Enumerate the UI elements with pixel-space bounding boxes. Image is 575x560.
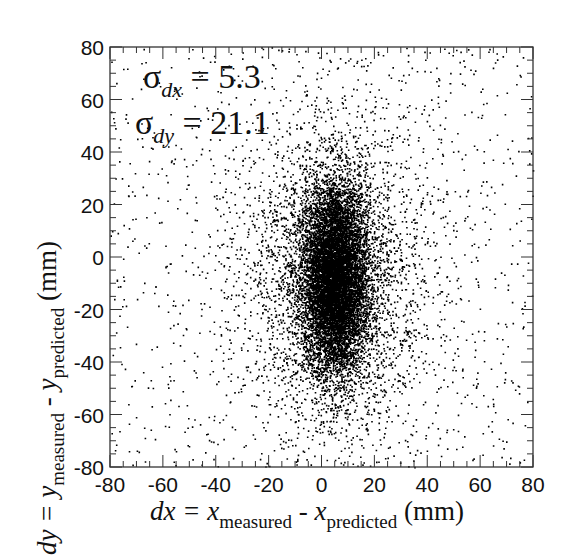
scatter-chart: -80-60-40-20020406080 -80-60-40-20020406…: [0, 0, 575, 560]
x-tick-label: 0: [316, 473, 328, 496]
x-tick-labels: -80-60-40-20020406080: [95, 473, 545, 496]
x-tick-label: -40: [201, 473, 231, 496]
x-axis-title: dx = xmeasured - xpredicted (mm): [150, 496, 464, 532]
y-axis-title: dy = ymeasured - ypredicted (mm): [32, 241, 68, 555]
y-tick-label: 60: [81, 89, 104, 112]
x-tick-label: 80: [521, 473, 544, 496]
x-tick-label: 40: [416, 473, 439, 496]
y-tick-label: 40: [81, 141, 104, 164]
y-tick-label: 0: [92, 246, 104, 269]
y-tick-labels: -80-60-40-20020406080: [74, 36, 104, 479]
y-tick-label: -60: [74, 404, 104, 427]
x-tick-label: 60: [468, 473, 491, 496]
x-tick-label: -80: [95, 473, 125, 496]
x-tick-label: -20: [253, 473, 283, 496]
x-tick-label: -60: [148, 473, 178, 496]
x-tick-label: 20: [363, 473, 386, 496]
y-tick-label: -20: [74, 299, 104, 322]
sigma-dy-annotation: σdy = 21.1: [135, 104, 270, 148]
y-tick-label: 80: [81, 36, 104, 59]
y-tick-label: -40: [74, 351, 104, 374]
y-tick-label: 20: [81, 194, 104, 217]
sigma-dx-annotation: σdx = 5.3: [143, 58, 261, 102]
